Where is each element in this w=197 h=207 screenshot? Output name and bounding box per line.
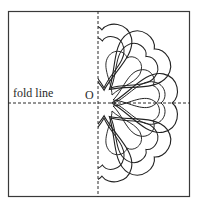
diagram: fold line O	[0, 0, 197, 207]
heart-lower-mid	[95, 104, 145, 158]
heart-bottom	[72, 115, 133, 183]
origin-label: O	[85, 89, 94, 101]
diagram-svg	[0, 0, 197, 207]
heart-top	[72, 24, 133, 92]
heart-upper-mid	[95, 48, 145, 102]
fold-line-label: fold line	[13, 87, 53, 99]
